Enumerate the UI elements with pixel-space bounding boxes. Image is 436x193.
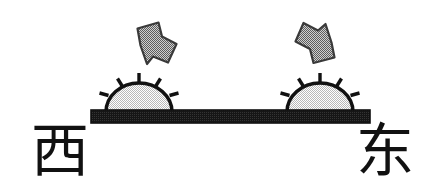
- sun-right-dome: [287, 83, 353, 112]
- sun-direction-diagram: 西 东: [0, 0, 436, 193]
- direction-label-east: 东: [356, 122, 414, 180]
- arrow-down-right-icon: [296, 23, 335, 63]
- sun-right: [281, 73, 360, 112]
- sun-left-dome: [106, 83, 172, 112]
- direction-label-west: 西: [31, 122, 89, 180]
- sun-left: [100, 73, 179, 112]
- horizon-bar-rect: [91, 110, 370, 123]
- horizon-bar: [91, 110, 370, 123]
- arrow-down-right-body: [296, 23, 335, 63]
- arrow-up-left-icon: [138, 23, 177, 65]
- arrow-up-left-body: [138, 23, 177, 65]
